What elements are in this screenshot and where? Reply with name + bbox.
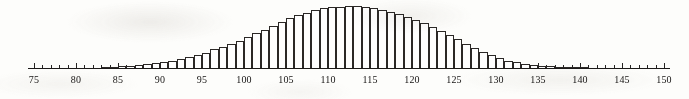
histogram-bar (404, 17, 412, 68)
histogram-bar (454, 39, 462, 68)
histogram-bar (210, 49, 218, 68)
x-axis-minor-tick (101, 65, 102, 68)
histogram-bar (420, 23, 428, 68)
x-axis-major-tick (538, 63, 539, 68)
x-axis-major-tick (328, 63, 329, 68)
x-axis-minor-tick (84, 65, 85, 68)
x-axis-minor-tick (345, 65, 346, 68)
x-axis-minor-tick (143, 65, 144, 68)
x-axis-minor-tick (656, 65, 657, 68)
histogram-bar (387, 12, 395, 68)
x-axis-tick-label: 110 (320, 74, 335, 85)
x-axis-minor-tick (68, 65, 69, 68)
x-axis-minor-tick (471, 65, 472, 68)
x-axis-minor-tick (404, 65, 405, 68)
histogram-bar (378, 10, 386, 68)
histogram-bar (269, 26, 277, 68)
x-axis-major-tick (412, 63, 413, 68)
x-axis-minor-tick (219, 65, 220, 68)
x-axis-minor-tick (294, 65, 295, 68)
histogram-bar (471, 48, 479, 68)
x-axis-minor-tick (639, 65, 640, 68)
histogram-plot-area: 7580859095100105110115120125130135140145… (0, 0, 689, 99)
histogram-bar (294, 15, 302, 68)
x-axis-minor-tick (521, 65, 522, 68)
x-axis-minor-tick (185, 65, 186, 68)
x-axis-minor-tick (278, 65, 279, 68)
histogram-bar (353, 6, 361, 68)
x-axis-minor-tick (572, 65, 573, 68)
x-axis-major-tick (118, 63, 119, 68)
x-axis-minor-tick (269, 65, 270, 68)
x-axis-tick-label: 145 (614, 74, 630, 85)
x-axis-minor-tick (530, 65, 531, 68)
histogram-bar (303, 13, 311, 68)
x-axis-tick-label: 85 (113, 74, 123, 85)
x-axis-minor-tick (51, 65, 52, 68)
x-axis-minor-tick (630, 65, 631, 68)
x-axis-major-tick (664, 63, 665, 68)
histogram-bar (370, 8, 378, 68)
x-axis-minor-tick (261, 65, 262, 68)
x-axis-minor-tick (320, 65, 321, 68)
x-axis-tick-label: 100 (236, 74, 252, 85)
x-axis-minor-tick (597, 65, 598, 68)
x-axis-minor-tick (387, 65, 388, 68)
x-axis-minor-tick (194, 65, 195, 68)
x-axis-minor-tick (59, 65, 60, 68)
histogram-bar (362, 7, 370, 68)
x-axis-minor-tick (614, 65, 615, 68)
x-axis-minor-tick (236, 65, 237, 68)
x-axis-minor-tick (311, 65, 312, 68)
x-axis-tick-label: 120 (404, 74, 420, 85)
histogram-bar (185, 57, 193, 68)
x-axis-minor-tick (353, 65, 354, 68)
histogram-bar (252, 33, 260, 68)
histogram-bar (227, 44, 235, 68)
x-axis-tick-label: 130 (488, 74, 504, 85)
x-axis-minor-tick (110, 65, 111, 68)
x-axis-tick-label: 135 (530, 74, 546, 85)
x-axis-tick-label: 105 (278, 74, 294, 85)
x-axis-major-tick (160, 63, 161, 68)
x-axis-minor-tick (227, 65, 228, 68)
x-axis-minor-tick (252, 65, 253, 68)
x-axis-major-tick (370, 63, 371, 68)
histogram-bar (446, 35, 454, 68)
x-axis-minor-tick (555, 65, 556, 68)
x-axis-major-tick (34, 63, 35, 68)
x-axis-minor-tick (605, 65, 606, 68)
histogram-bar (177, 59, 185, 68)
histogram-bar (504, 61, 512, 68)
x-axis-major-tick (202, 63, 203, 68)
histogram-bar (219, 47, 227, 68)
x-axis-minor-tick (513, 65, 514, 68)
x-axis-minor-tick (504, 65, 505, 68)
x-axis-minor-tick (546, 65, 547, 68)
x-axis-minor-tick (488, 65, 489, 68)
histogram-bar (261, 30, 269, 68)
x-axis-tick-label: 140 (572, 74, 588, 85)
histogram-bar (345, 6, 353, 68)
x-axis-minor-tick (177, 65, 178, 68)
histogram-bar (462, 44, 470, 68)
x-axis-tick-label: 80 (71, 74, 81, 85)
x-axis-minor-tick (446, 65, 447, 68)
x-axis-minor-tick (395, 65, 396, 68)
x-axis-tick-label: 95 (197, 74, 207, 85)
x-axis-minor-tick (588, 65, 589, 68)
x-axis-minor-tick (429, 65, 430, 68)
x-axis-minor-tick (210, 65, 211, 68)
x-axis-minor-tick (303, 65, 304, 68)
x-axis-tick-label: 75 (29, 74, 39, 85)
x-axis-minor-tick (126, 65, 127, 68)
x-axis-major-tick (580, 63, 581, 68)
histogram-bar (395, 14, 403, 68)
x-axis-minor-tick (420, 65, 421, 68)
histogram-bar (320, 8, 328, 68)
x-axis-minor-tick (479, 65, 480, 68)
x-axis-minor-tick (152, 65, 153, 68)
histogram-bar (278, 22, 286, 68)
x-axis-tick-label: 125 (446, 74, 462, 85)
x-axis-tick-label: 150 (656, 74, 672, 85)
